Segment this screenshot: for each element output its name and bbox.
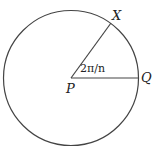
angle-label: 2π/n xyxy=(80,63,105,74)
label-x: X xyxy=(112,9,121,22)
label-q: Q xyxy=(141,71,152,84)
label-p: P xyxy=(66,82,75,95)
circle-diagram xyxy=(0,0,158,157)
